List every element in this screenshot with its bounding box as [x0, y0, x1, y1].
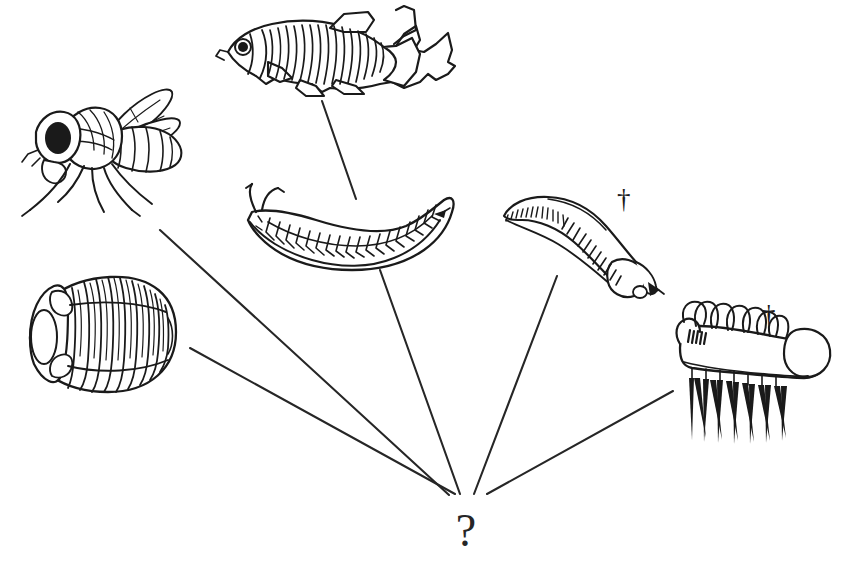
extinct-marker-hallucigenia: † [762, 302, 776, 329]
phylogeny-figure: † † ? [0, 0, 844, 585]
hallucigenia-icon [0, 0, 844, 585]
unknown-common-ancestor-label: ? [446, 508, 486, 554]
extinct-marker-priapulid: † [617, 186, 631, 213]
